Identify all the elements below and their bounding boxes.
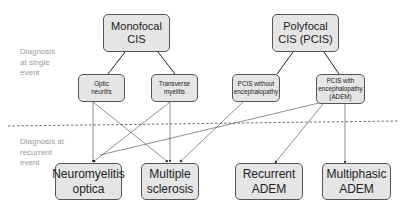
node-pcis-with-encephalopathy: PCIS with encephalopathy (ADEM) [316,74,365,104]
node-optic-neuritis: Optic neuritis [78,74,125,102]
node-multiple-sclerosis: Multiple sclerosis [141,163,199,200]
node-multiphasic-adem: Multiphasic ADEM [322,163,391,200]
node-transverse-myelitis: Transverse myelitis [151,74,198,102]
node-neuromyelitis-optica: Neuromyelitis optica [55,163,122,200]
node-polyfocal-cis: Polyfocal CIS (PCIS) [272,14,339,52]
label-single-event: Diagnosis at single event [20,47,60,79]
node-recurrent-adem: Recurrent ADEM [235,163,303,200]
node-pcis-without-encephalopathy: PCIS without encephalopathy [232,74,280,102]
node-monofocal-cis: Monofocal CIS [103,14,170,52]
